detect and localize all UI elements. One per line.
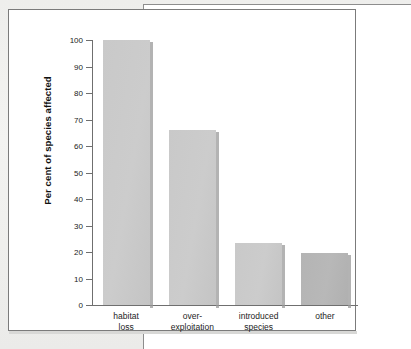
y-axis-tick-label: 60 <box>41 142 83 151</box>
y-axis-tick-mark <box>86 305 92 306</box>
y-axis-tick-label: 0 <box>41 301 83 310</box>
plot-area: Per cent of species affected 01020304050… <box>17 19 365 341</box>
y-axis-tick-label: 80 <box>41 89 83 98</box>
bar <box>235 243 282 305</box>
x-axis-category-label-line: species <box>214 322 304 333</box>
bar-shadow <box>282 245 285 308</box>
y-axis-tick-mark <box>86 252 92 253</box>
bar-column <box>169 130 216 305</box>
y-axis-tick-label: 50 <box>41 169 83 178</box>
bar-column <box>103 40 150 305</box>
x-axis-category-label-line: other <box>280 311 370 322</box>
bar-shadow <box>150 42 153 308</box>
y-axis-tick-mark <box>86 226 92 227</box>
y-axis-tick-mark <box>86 279 92 280</box>
x-axis-line <box>92 305 358 306</box>
y-axis-line <box>92 40 93 306</box>
bar <box>103 40 150 305</box>
y-axis-tick-label: 100 <box>41 36 83 45</box>
bar-shadow <box>348 255 351 308</box>
chart-panel: Per cent of species affected 01020304050… <box>8 9 356 331</box>
bar-shadow <box>216 132 219 308</box>
y-axis-tick-mark <box>86 199 92 200</box>
y-axis-tick-mark <box>86 67 92 68</box>
y-axis-tick-label: 40 <box>41 195 83 204</box>
y-axis-tick-mark <box>86 93 92 94</box>
y-axis-tick-mark <box>86 120 92 121</box>
y-axis-tick-label: 30 <box>41 222 83 231</box>
y-axis-tick-label: 90 <box>41 63 83 72</box>
y-axis-tick-label: 10 <box>41 275 83 284</box>
bar-column <box>235 243 282 305</box>
bar <box>169 130 216 305</box>
bar <box>301 253 348 305</box>
y-axis-tick-label: 20 <box>41 248 83 257</box>
bar-column <box>301 253 348 305</box>
x-axis-category-label: other <box>280 311 370 322</box>
y-axis-tick-mark <box>86 173 92 174</box>
y-axis-tick-mark <box>86 40 92 41</box>
y-axis-tick-label: 70 <box>41 116 83 125</box>
y-axis-tick-mark <box>86 146 92 147</box>
